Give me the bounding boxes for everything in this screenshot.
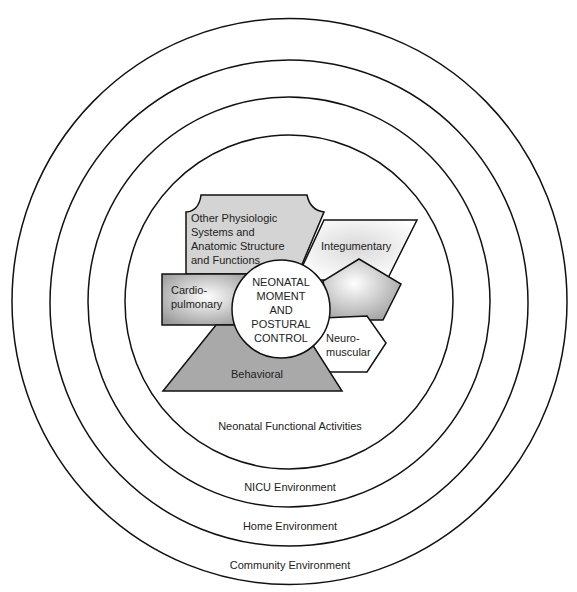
cardiopulmonary-label-line1: Cardio- (171, 284, 207, 296)
ring-label-home: Home Environment (243, 520, 337, 532)
ring-label-community: Community Environment (230, 559, 350, 571)
neonatal-model-diagram: Neonatal Functional Activities NICU Envi… (0, 0, 577, 592)
ring-label-functional-activities: Neonatal Functional Activities (218, 420, 362, 432)
svg-text:CONTROL: CONTROL (254, 332, 308, 344)
svg-text:AND: AND (269, 304, 292, 316)
svg-text:and Functions: and Functions (191, 254, 261, 266)
cardiopulmonary-label-line2: pulmonary (171, 298, 223, 310)
svg-text:POSTURAL: POSTURAL (251, 318, 310, 330)
integumentary-label: Integumentary (321, 240, 392, 252)
behavioral-label: Behavioral (231, 368, 283, 380)
svg-text:MOMENT: MOMENT (257, 290, 306, 302)
neuromuscular-label-line2: muscular (326, 346, 371, 358)
svg-text:NEONATAL: NEONATAL (252, 276, 310, 288)
svg-text:Other Physiologic: Other Physiologic (191, 212, 278, 224)
neuromuscular-label-line1: Neuro- (326, 332, 360, 344)
svg-text:Anatomic Structure: Anatomic Structure (191, 240, 285, 252)
ring-label-nicu: NICU Environment (244, 481, 336, 493)
svg-text:Systems and: Systems and (191, 226, 255, 238)
